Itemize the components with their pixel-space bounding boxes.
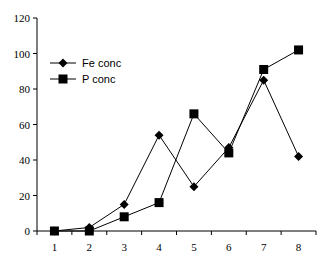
legend-marker-square-icon — [59, 75, 68, 84]
y-tick-label: 100 — [14, 48, 31, 60]
y-axis: 020406080100120 — [14, 12, 38, 237]
x-tick-label: 7 — [261, 241, 267, 253]
x-tick-label: 6 — [226, 241, 232, 253]
data-point-p-conc — [85, 227, 94, 236]
legend: Fe concP conc — [50, 57, 122, 85]
x-tick-label: 8 — [296, 241, 302, 253]
y-tick-label: 120 — [14, 12, 31, 24]
data-point-fe-conc — [120, 200, 129, 209]
y-tick-label: 80 — [19, 83, 31, 95]
y-tick-label: 40 — [19, 154, 31, 166]
legend-label: Fe conc — [82, 57, 122, 69]
x-axis: 12345678 — [37, 231, 316, 253]
legend-marker-diamond-icon — [59, 59, 68, 68]
series-line-fe-conc — [54, 80, 298, 231]
x-tick-label: 2 — [87, 241, 93, 253]
x-tick-label: 3 — [121, 241, 127, 253]
legend-item-p-conc: P conc — [50, 73, 116, 85]
data-point-p-conc — [294, 45, 303, 54]
legend-label: P conc — [82, 73, 116, 85]
data-point-fe-conc — [294, 152, 303, 161]
data-point-p-conc — [155, 198, 164, 207]
y-tick-label: 0 — [25, 225, 31, 237]
data-point-p-conc — [259, 65, 268, 74]
series-fe-conc — [50, 76, 303, 236]
x-tick-label: 1 — [52, 241, 58, 253]
data-point-p-conc — [50, 227, 59, 236]
y-tick-label: 20 — [19, 190, 31, 202]
chart: 020406080100120 12345678 Fe concP conc — [0, 0, 326, 260]
data-point-p-conc — [189, 109, 198, 118]
x-tick-label: 5 — [191, 241, 197, 253]
data-point-p-conc — [224, 148, 233, 157]
legend-item-fe-conc: Fe conc — [50, 57, 122, 69]
data-point-p-conc — [120, 212, 129, 221]
x-tick-label: 4 — [156, 241, 162, 253]
data-point-fe-conc — [155, 131, 164, 140]
y-tick-label: 60 — [19, 119, 31, 131]
